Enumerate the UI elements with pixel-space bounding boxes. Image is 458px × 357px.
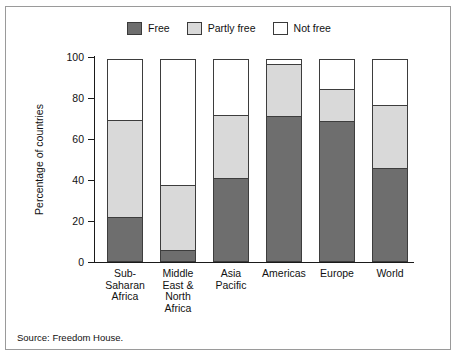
y-axis-tick-label: 80 — [54, 93, 84, 104]
bar-segment-free[interactable] — [213, 178, 249, 262]
bar-segment-partly-free[interactable] — [372, 105, 408, 169]
y-axis-tick-label: 20 — [54, 216, 84, 227]
bar-segment-free[interactable] — [160, 250, 196, 262]
y-axis-tick — [88, 180, 94, 181]
y-axis-tick — [88, 57, 94, 58]
figure-container: Free Partly free Not free Percentage of … — [0, 0, 458, 357]
bar-segment-not-free[interactable] — [160, 59, 196, 186]
legend-label-free: Free — [148, 23, 170, 34]
y-axis-tick — [88, 139, 94, 140]
y-axis-title: Percentage of countries — [33, 57, 45, 262]
bar-segment-free[interactable] — [107, 217, 143, 262]
bar-segment-partly-free[interactable] — [213, 115, 249, 179]
bar-segment-free[interactable] — [266, 116, 302, 262]
x-axis-label-line: Africa — [147, 303, 209, 315]
stacked-bar[interactable] — [266, 59, 302, 262]
legend-label-not-free: Not free — [294, 23, 331, 34]
bar-group[interactable] — [160, 57, 196, 262]
stacked-bar[interactable] — [213, 59, 249, 262]
bar-segment-partly-free[interactable] — [319, 89, 355, 122]
stacked-bar[interactable] — [160, 59, 196, 262]
bar-segment-not-free[interactable] — [107, 59, 143, 121]
legend-label-partly-free: Partly free — [208, 23, 256, 34]
x-axis-label-line: World — [359, 268, 421, 280]
x-axis-label-line: Pacific — [200, 280, 262, 292]
plot-area — [95, 57, 413, 262]
stacked-bar[interactable] — [107, 59, 143, 262]
bar-segment-free[interactable] — [319, 121, 355, 262]
stacked-bar[interactable] — [319, 59, 355, 262]
legend-entry-free: Free — [127, 22, 170, 35]
bar-group[interactable] — [319, 57, 355, 262]
bar-segment-not-free[interactable] — [319, 59, 355, 90]
bar-segment-free[interactable] — [372, 168, 408, 262]
y-axis-tick-label: 0 — [54, 257, 84, 268]
x-axis-line — [94, 262, 414, 263]
bar-segment-partly-free[interactable] — [107, 120, 143, 218]
bar-segment-partly-free[interactable] — [160, 185, 196, 251]
bar-group[interactable] — [266, 57, 302, 262]
legend-entry-partly-free: Partly free — [187, 22, 256, 35]
bar-group[interactable] — [372, 57, 408, 262]
source-note: Source: Freedom House. — [17, 332, 123, 343]
legend-swatch-partly-free — [187, 22, 202, 35]
y-axis-tick — [88, 221, 94, 222]
y-axis-tick-labels: 100806040200 — [52, 0, 84, 357]
legend-swatch-free — [127, 22, 142, 35]
stacked-bar[interactable] — [372, 59, 408, 262]
legend-entry-not-free: Not free — [273, 22, 331, 35]
x-axis-category-label: World — [359, 268, 421, 280]
y-axis-tick-label: 100 — [54, 52, 84, 63]
bar-group[interactable] — [107, 57, 143, 262]
bar-segment-not-free[interactable] — [372, 59, 408, 106]
y-axis-tick-label: 40 — [54, 175, 84, 186]
bar-segment-not-free[interactable] — [213, 59, 249, 116]
bar-group[interactable] — [213, 57, 249, 262]
y-axis-tick — [88, 262, 94, 263]
bar-segment-partly-free[interactable] — [266, 64, 302, 117]
y-axis-tick — [88, 98, 94, 99]
legend-swatch-not-free — [273, 22, 288, 35]
y-axis-tick-label: 60 — [54, 134, 84, 145]
